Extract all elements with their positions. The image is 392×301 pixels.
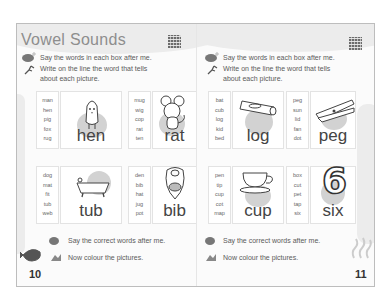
word: fan (294, 125, 302, 135)
word: mug (134, 96, 145, 106)
header-wash (177, 23, 375, 52)
spine-divider (196, 24, 197, 286)
word: hen (43, 106, 52, 116)
instruction-write-line2: about each picture. (40, 74, 100, 84)
word: jug (136, 200, 143, 210)
word-box-3: dog mat fit tub web (36, 166, 59, 224)
word: kid (216, 125, 223, 135)
whale-icon (18, 246, 43, 264)
word: cop (135, 115, 144, 125)
word: wig (135, 106, 143, 116)
word: cup (215, 190, 224, 200)
footer-colour: Now colour the pictures. (68, 253, 143, 263)
bathtub-icon (76, 177, 110, 201)
svg-text:6: 6 (322, 160, 347, 201)
word: tub (44, 200, 52, 210)
answer-word: tub (61, 201, 121, 221)
right-page: Say the words in each box after me. Writ… (197, 24, 375, 286)
word: lid (295, 115, 301, 125)
left-page: Vowel Sounds Say the words in each box a… (17, 24, 197, 286)
page-number: 10 (29, 268, 41, 280)
word: box (293, 171, 302, 181)
word: pen (215, 171, 224, 181)
word: cot (216, 200, 223, 210)
word: man (42, 96, 53, 106)
steam-icon (351, 236, 373, 260)
word: log (216, 115, 223, 125)
word: cut (294, 181, 301, 191)
instruction-say: Say the words in each box after me. (40, 53, 152, 63)
word: fox (44, 125, 51, 135)
side-wash (357, 104, 375, 244)
picture-box-peg: peg (310, 91, 356, 149)
side-wash (16, 94, 25, 254)
word: ten (136, 134, 144, 144)
word: dog (43, 171, 52, 181)
bib-icon (162, 167, 188, 201)
word: six (294, 209, 301, 219)
page-title: Vowel Sounds (21, 31, 126, 49)
word: rat (136, 125, 142, 135)
word-box-1: bat cub log kid bed (208, 91, 231, 149)
clothes-peg-icon (314, 98, 356, 124)
word: fit (45, 190, 49, 200)
instruction-write-line2: about each picture. (223, 74, 283, 84)
hedgehog-icon (205, 53, 218, 63)
word: web (42, 209, 52, 219)
word: dot (294, 134, 302, 144)
word: pet (294, 190, 302, 200)
word-box-4: den bib hat jug pot (128, 166, 151, 224)
answer-word: rat (153, 126, 196, 146)
word: bed (215, 134, 224, 144)
workbook-spread: Vowel Sounds Say the words in each box a… (16, 23, 375, 287)
word: pig (44, 115, 51, 125)
word: pot (136, 209, 144, 219)
word: bat (216, 96, 224, 106)
picture-box-cup: cup (232, 166, 284, 224)
word: tap (294, 200, 302, 210)
paint-figure-icon (50, 252, 62, 262)
word: sun (293, 106, 302, 116)
answer-word: six (311, 201, 355, 221)
word-box-2: mug wig cop rat ten (128, 91, 151, 149)
page-number: 11 (355, 268, 367, 280)
footer-say: Say the correct words after me. (68, 236, 165, 246)
picture-box-log: log (232, 91, 284, 149)
writing-figure-icon (23, 64, 35, 76)
picture-box-hen: hen (60, 91, 122, 149)
qr-code-icon[interactable] (168, 35, 181, 48)
number-six-icon: 6 (321, 161, 347, 199)
word: mat (43, 181, 52, 191)
word: bib (136, 181, 143, 191)
word-box-4: box cut pet tap six (286, 166, 309, 224)
instruction-write-line1: Write on the line the word that tells (223, 64, 330, 74)
footer-colour: Now colour the pictures. (223, 253, 298, 263)
picture-box-bib: bib (152, 166, 196, 224)
answer-word: cup (233, 201, 283, 221)
qr-code-icon[interactable] (349, 37, 362, 50)
instruction-say: Say the words in each box after me. (223, 53, 335, 63)
answer-word: log (233, 126, 283, 146)
picture-box-rat: rat (152, 91, 196, 149)
writing-figure-icon (206, 64, 218, 76)
footer-say: Say the correct words after me. (223, 236, 320, 246)
log-icon (239, 97, 279, 117)
word: rug (44, 134, 52, 144)
word: tip (217, 181, 223, 191)
hedgehog-icon (205, 236, 216, 246)
word-box-3: pen tip cup cot map (208, 166, 231, 224)
teacup-icon (239, 169, 279, 197)
word: map (214, 209, 225, 219)
answer-word: hen (61, 126, 121, 146)
instruction-write-line1: Write on the line the word that tells (40, 64, 147, 74)
word: cub (215, 106, 224, 116)
word-box-1: man hen pig fox rug (36, 91, 59, 149)
answer-word: peg (311, 126, 355, 146)
word: hat (136, 190, 144, 200)
word: peg (293, 96, 302, 106)
picture-box-six: 6 six (310, 166, 356, 224)
word-box-2: peg sun lid fan dot (286, 91, 309, 149)
picture-box-tub: tub (60, 166, 122, 224)
hedgehog-icon (22, 53, 35, 63)
word: den (135, 171, 144, 181)
